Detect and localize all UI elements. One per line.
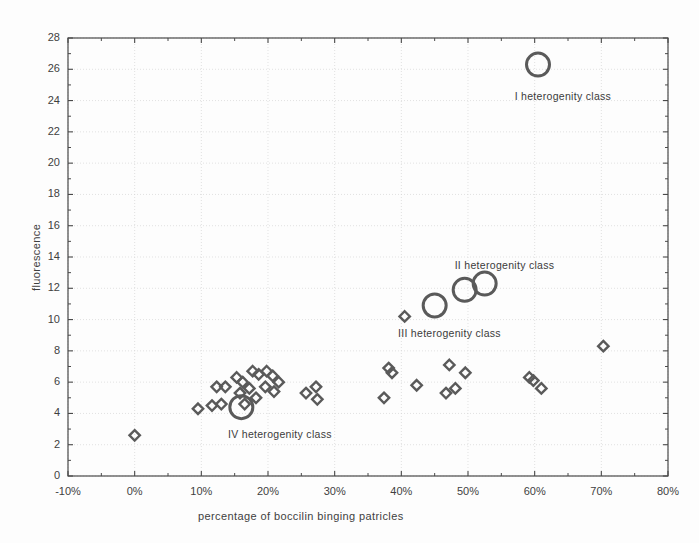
y-tick-label: 8 [38, 344, 60, 356]
x-tick-label: 60% [512, 485, 558, 497]
data-point [460, 368, 470, 378]
data-point [598, 341, 608, 351]
y-tick-label: 22 [38, 125, 60, 137]
x-tick-label: 80% [645, 485, 691, 497]
y-tick-label: 20 [38, 156, 60, 168]
x-tick-label: 20% [245, 485, 291, 497]
y-tick-label: 2 [38, 438, 60, 450]
y-tick-label: 26 [38, 62, 60, 74]
data-point [444, 360, 454, 370]
y-tick-label: 16 [38, 219, 60, 231]
y-tick-label: 18 [38, 187, 60, 199]
data-point [527, 53, 550, 76]
y-tick-label: 24 [38, 94, 60, 106]
data-point [312, 394, 322, 404]
scatter-chart: fluorescence percentage of boccilin bing… [0, 0, 699, 543]
x-tick-label: 10% [178, 485, 224, 497]
gridlines [68, 38, 668, 476]
y-tick-label: 0 [38, 469, 60, 481]
plot-canvas [0, 0, 699, 543]
y-tick-label: 14 [38, 250, 60, 262]
annotation-class-iii: III heterogenity class [398, 327, 501, 339]
x-tick-label: 0% [112, 485, 158, 497]
data-point [473, 272, 496, 295]
data-point [231, 372, 241, 382]
annotation-class-i: I heterogenity class [515, 90, 611, 102]
x-tick-label: -10% [45, 485, 91, 497]
annotation-class-iv: IV heterogenity class [228, 428, 332, 440]
x-tick-label: 70% [578, 485, 624, 497]
data-point [301, 388, 311, 398]
y-tick-label: 6 [38, 375, 60, 387]
x-tick-label: 30% [312, 485, 358, 497]
data-point [193, 404, 203, 414]
data-point [528, 375, 538, 385]
y-tick-label: 10 [38, 313, 60, 325]
data-point [220, 382, 230, 392]
y-tick-label: 12 [38, 281, 60, 293]
data-point [216, 399, 226, 409]
data-point [239, 399, 249, 409]
data-point [379, 393, 389, 403]
data-point [536, 383, 546, 393]
data-point [129, 430, 139, 440]
x-tick-label: 40% [378, 485, 424, 497]
data-point [411, 380, 421, 390]
data-point [207, 400, 217, 410]
data-point [387, 368, 397, 378]
y-tick-label: 4 [38, 406, 60, 418]
data-point [311, 382, 321, 392]
x-axis-title: percentage of boccilin binging patricles [198, 510, 404, 522]
data-point [423, 294, 446, 317]
annotation-class-ii: II heterogenity class [455, 259, 555, 271]
y-tick-label: 28 [38, 31, 60, 43]
x-tick-label: 50% [445, 485, 491, 497]
